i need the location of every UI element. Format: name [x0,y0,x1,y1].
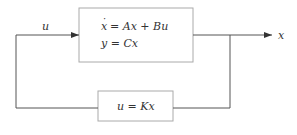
plant-state-equation-rhs: = Ax + Bu [110,20,168,33]
plant-output-equation: y = Cx [100,37,139,50]
plant-state-equation-lhs: x [101,20,108,33]
block-diagram: u x · x = Ax + Bu y = Cx u = Kx [0,0,297,135]
input-signal-line [16,35,79,108]
output-signal-label: x [278,29,285,42]
feedback-equation: u = Kx [117,100,156,113]
input-signal-label: u [42,20,49,33]
plant-block [79,8,193,62]
